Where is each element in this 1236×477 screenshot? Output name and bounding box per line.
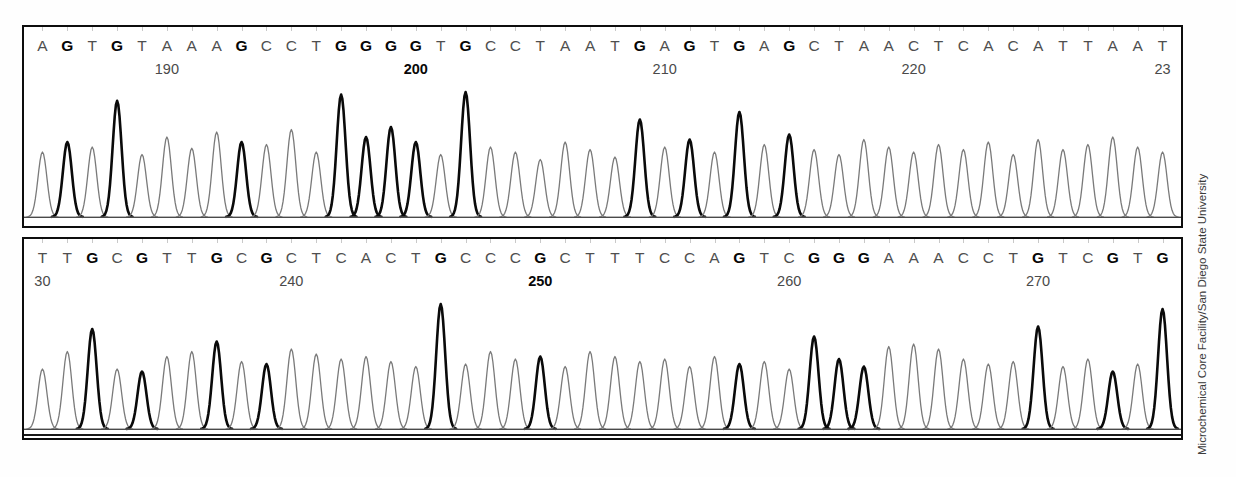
tick-mark (939, 27, 940, 31)
tick-mark (739, 27, 740, 31)
base-call: G (828, 245, 850, 271)
tick-mark (988, 27, 989, 31)
tick-mark (789, 27, 790, 31)
position-label: 240 (263, 270, 319, 292)
base-call: G (330, 33, 352, 59)
base-call: G (728, 33, 750, 59)
base-call: C (280, 245, 302, 271)
trace-peak (102, 369, 133, 429)
tick-mark (1063, 239, 1064, 243)
trace-peak (1147, 309, 1178, 429)
credit-label: Microchemical Core Facility/San Diego St… (1196, 174, 1208, 455)
tick-mark (515, 239, 516, 243)
tick-mark (416, 27, 417, 31)
tick-mark (764, 239, 765, 243)
tick-mark (1138, 27, 1139, 31)
tick-mark (1013, 27, 1014, 31)
trace-peak (201, 132, 232, 217)
position-label: 210 (637, 58, 693, 80)
tick-mark (988, 239, 989, 243)
base-call: A (181, 33, 203, 59)
base-call: T (430, 33, 452, 59)
tick-mark (963, 27, 964, 31)
trace-peak (127, 372, 158, 429)
base-call: A (31, 33, 53, 59)
tick-mark (1088, 239, 1089, 243)
position-label: 30 (22, 270, 70, 292)
base-call: A (853, 33, 875, 59)
base-call: C (479, 33, 501, 59)
base-call: C (952, 33, 974, 59)
tick-mark (142, 27, 143, 31)
trace-peak (600, 357, 631, 429)
tick-mark (814, 239, 815, 243)
tick-mark (117, 27, 118, 31)
base-call: A (977, 33, 999, 59)
trace-peak (77, 329, 108, 429)
base-call: C (106, 245, 128, 271)
trace-peak (724, 364, 755, 429)
tick-mark (67, 239, 68, 243)
tick-mark (466, 239, 467, 243)
base-call: A (1027, 33, 1049, 59)
credit-text: Microchemical Core Facility/San Diego St… (1196, 174, 1208, 455)
trace-peak (550, 367, 581, 429)
trace-baseline-thick-panel-2 (24, 434, 1181, 436)
tick-mark (889, 27, 890, 31)
tick-mark (640, 27, 641, 31)
base-call: C (554, 245, 576, 271)
tick-mark (217, 27, 218, 31)
base-call: G (131, 245, 153, 271)
tick-mark (540, 239, 541, 243)
base-call: T (156, 245, 178, 271)
trace-peak (799, 150, 830, 217)
base-call: C (455, 245, 477, 271)
trace-peak (973, 142, 1004, 217)
trace-peak (500, 359, 531, 429)
base-call: C (330, 245, 352, 271)
trace-peak (550, 142, 581, 217)
tick-mark (839, 239, 840, 243)
trace-peak (176, 148, 207, 217)
tick-mark (864, 27, 865, 31)
tick-mark (341, 27, 342, 31)
trace-peak (27, 369, 58, 429)
base-call: C (1077, 245, 1099, 271)
base-call: A (554, 33, 576, 59)
base-call: G (1102, 245, 1124, 271)
tick-mark (640, 239, 641, 243)
base-call: T (579, 245, 601, 271)
trace-baseline-panel-1 (24, 217, 1181, 219)
base-call: C (504, 245, 526, 271)
tick-mark (416, 239, 417, 243)
trace-peak (674, 367, 705, 429)
tick-mark (939, 239, 940, 243)
tick-mark (391, 27, 392, 31)
tick-mark (217, 239, 218, 243)
trace-peak (326, 359, 357, 429)
trace-peak (724, 112, 755, 217)
base-call: G (629, 33, 651, 59)
tick-mark (366, 27, 367, 31)
base-call: T (305, 33, 327, 59)
base-call: C (803, 33, 825, 59)
trace-curve-panel-1 (24, 86, 1181, 226)
trace-peak (1048, 367, 1079, 429)
base-call: G (728, 245, 750, 271)
base-call: C (504, 33, 526, 59)
tick-mark (167, 27, 168, 31)
trace-peak (351, 137, 382, 217)
base-call: A (1102, 33, 1124, 59)
trace-peak (998, 155, 1029, 217)
tick-mark (192, 27, 193, 31)
base-call: C (977, 245, 999, 271)
trace-peak (52, 142, 83, 217)
base-call: G (853, 245, 875, 271)
trace-peak (1048, 150, 1079, 217)
trace-peak (127, 155, 158, 217)
tick-mark (266, 27, 267, 31)
trace-peak (400, 367, 431, 429)
base-call: A (878, 33, 900, 59)
tick-mark (366, 239, 367, 243)
trace-peak (351, 357, 382, 429)
